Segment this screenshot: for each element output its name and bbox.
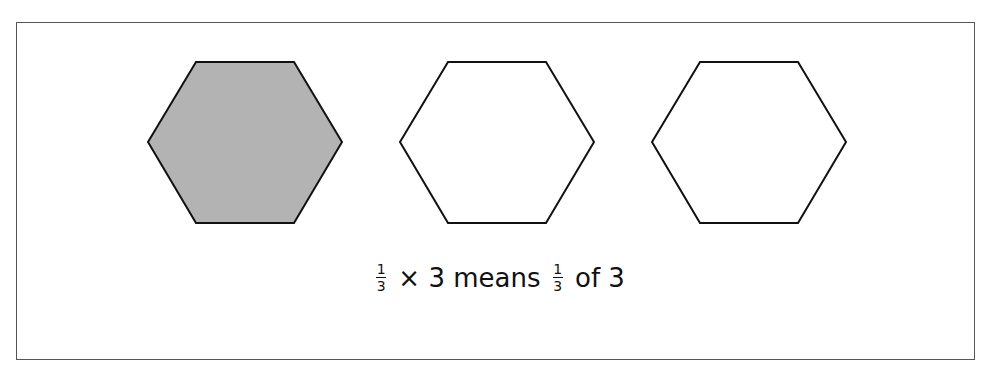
- denominator: 3: [553, 279, 562, 293]
- fraction-one-third: 1 3: [376, 262, 386, 293]
- hexagon-empty-2: [652, 62, 846, 223]
- caption-text-1: × 3 means: [390, 263, 549, 293]
- denominator: 3: [377, 279, 386, 293]
- hexagon-row: [0, 0, 997, 379]
- caption: 1 3 × 3 means 1 3 of 3: [0, 262, 997, 293]
- hexagon-shaded: [148, 62, 342, 223]
- numerator: 1: [377, 262, 386, 276]
- caption-text-2: of 3: [567, 263, 625, 293]
- hexagon-empty-1: [400, 62, 594, 223]
- numerator: 1: [553, 262, 562, 276]
- fraction-one-third-2: 1 3: [553, 262, 563, 293]
